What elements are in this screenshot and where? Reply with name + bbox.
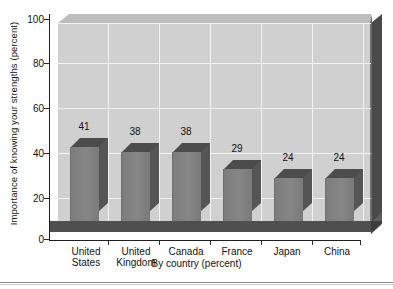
bar-china[interactable]: 24 <box>325 178 353 221</box>
x-label-japan: Japan <box>261 246 313 257</box>
gridline-v-5 <box>312 23 313 224</box>
y-tick-label-80: 80 <box>18 59 44 69</box>
bar-front-face <box>121 152 150 221</box>
bar-side-face <box>200 143 210 212</box>
bar-value-label: 41 <box>78 121 89 132</box>
y-tick-label-60: 60 <box>18 104 44 114</box>
bar-value-label: 38 <box>180 126 191 137</box>
plot-floor-right <box>371 221 382 232</box>
y-axis-line <box>49 14 50 240</box>
x-label-canada: Canada <box>159 246 213 257</box>
x-label-france: France <box>210 246 264 257</box>
bar-united-states[interactable]: 41 <box>70 147 98 221</box>
gridline-v-2 <box>159 23 160 224</box>
bar-front-face <box>325 178 354 221</box>
plot-right-wall-highlight <box>370 14 372 234</box>
y-tick-label-40: 40 <box>18 149 44 159</box>
gridline-v-3 <box>210 23 211 224</box>
gridline-h-100 <box>58 23 371 24</box>
bar-value-label: 24 <box>333 152 344 163</box>
bar-value-label: 24 <box>282 152 293 163</box>
x-tick-mark-5 <box>312 240 313 245</box>
x-axis-title: By country (percent) <box>0 258 393 269</box>
bar-value-label: 29 <box>231 143 242 154</box>
bar-france[interactable]: 29 <box>223 169 251 221</box>
bar-front-face <box>274 178 303 221</box>
bar-chart-figure: Importance of knowing your strengths (pe… <box>0 0 393 289</box>
figure-frame-bottom-shadow <box>0 284 393 285</box>
bar-value-label: 38 <box>129 126 140 137</box>
bar-united-kingdom[interactable]: 38 <box>121 152 149 221</box>
bar-front-face <box>70 147 99 221</box>
bar-canada[interactable]: 38 <box>172 152 200 221</box>
bar-front-face <box>223 169 252 221</box>
x-tick-mark-6 <box>360 240 361 245</box>
y-tick-label-0: 0 <box>18 235 44 245</box>
figure-frame-bottom <box>0 282 393 283</box>
x-tick-mark-1 <box>108 240 109 245</box>
y-tick-label-20: 20 <box>18 194 44 204</box>
bar-front-face <box>172 152 201 221</box>
bar-side-face <box>149 143 159 212</box>
y-axis-ticks: 100 80 60 40 20 0 <box>14 0 44 289</box>
plot-floor-front <box>49 221 371 232</box>
plot-right-wall <box>371 14 382 234</box>
x-label-china: China <box>311 246 363 257</box>
plot-area: 41 38 38 29 24 <box>49 14 382 240</box>
x-axis-line <box>49 240 360 241</box>
x-tick-mark-2 <box>159 240 160 245</box>
x-tick-mark-4 <box>261 240 262 245</box>
gridline-v-4 <box>261 23 262 224</box>
bar-japan[interactable]: 24 <box>274 178 302 221</box>
bar-side-face <box>98 138 108 212</box>
y-tick-label-100: 100 <box>18 15 44 25</box>
x-tick-mark-3 <box>210 240 211 245</box>
gridline-v-6 <box>363 23 364 224</box>
gridline-v-1 <box>108 23 109 224</box>
gridline-h-80 <box>58 63 371 64</box>
gridline-h-60 <box>58 108 371 109</box>
